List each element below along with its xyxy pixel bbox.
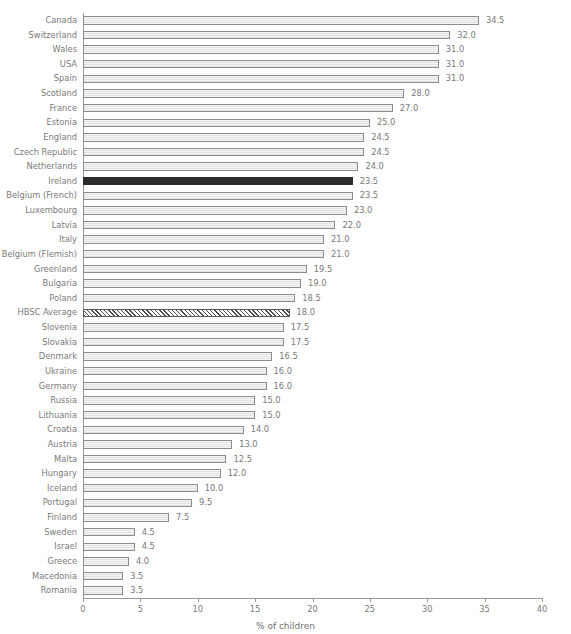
bar-row: Ukraine16.0 [83, 364, 542, 379]
x-tick [83, 598, 84, 602]
bar [83, 250, 324, 258]
bar [83, 367, 267, 375]
category-label: Canada [0, 13, 77, 28]
x-tick-label: 0 [68, 604, 98, 614]
bar-row: Belgium (Flemish)21.0 [83, 247, 542, 262]
bar [83, 586, 123, 594]
x-tick-label: 35 [470, 604, 500, 614]
category-label: Macedonia [0, 569, 77, 584]
bar-row: Sweden4.5 [83, 525, 542, 540]
bar-value-label: 3.5 [125, 569, 143, 584]
bar [83, 411, 255, 419]
bar-row: Russia15.0 [83, 393, 542, 408]
category-label: Slovakia [0, 335, 77, 350]
category-label: Lithuania [0, 408, 77, 423]
bar-value-label: 23.0 [349, 203, 372, 218]
x-tick [485, 598, 486, 602]
category-label: Belgium (French) [0, 188, 77, 203]
bar-row: Czech Republic24.5 [83, 145, 542, 160]
bar-row: Italy21.0 [83, 232, 542, 247]
bar-value-label: 21.0 [326, 247, 349, 262]
bar [83, 323, 284, 331]
bar-row: Hungary12.0 [83, 466, 542, 481]
category-label: Belgium (Flemish) [0, 247, 77, 262]
bar-value-label: 16.5 [274, 349, 297, 364]
category-label: Spain [0, 71, 77, 86]
bar-value-label: 31.0 [441, 42, 464, 57]
bar-row: Scotland28.0 [83, 86, 542, 101]
plot-area: Canada34.5Switzerland32.0Wales31.0USA31.… [83, 13, 542, 598]
bar-row: England24.5 [83, 130, 542, 145]
bar-row: Latvia22.0 [83, 218, 542, 233]
bar-row: Bulgaria19.0 [83, 276, 542, 291]
bar [83, 455, 226, 463]
bar-row: Poland18.5 [83, 291, 542, 306]
bar-value-label: 23.5 [355, 174, 378, 189]
bar-value-label: 19.0 [303, 276, 326, 291]
bar [83, 484, 198, 492]
bar-value-label: 12.0 [223, 466, 246, 481]
category-label: Romania [0, 583, 77, 598]
category-label: France [0, 101, 77, 116]
bar-value-label: 10.0 [200, 481, 223, 496]
category-label: Poland [0, 291, 77, 306]
category-label: Malta [0, 452, 77, 467]
category-label: Greece [0, 554, 77, 569]
x-tick-label: 40 [527, 604, 557, 614]
category-label: Estonia [0, 115, 77, 130]
bar [83, 440, 232, 448]
x-tick-label: 25 [355, 604, 385, 614]
bar-row: Macedonia3.5 [83, 569, 542, 584]
x-tick-label: 10 [183, 604, 213, 614]
bar-value-label: 13.0 [234, 437, 257, 452]
bar-row: Slovenia17.5 [83, 320, 542, 335]
bar-value-label: 4.5 [137, 525, 155, 540]
x-tick [427, 598, 428, 602]
bar-chart: Canada34.5Switzerland32.0Wales31.0USA31.… [0, 0, 571, 634]
bar-row: Austria13.0 [83, 437, 542, 452]
x-tick [198, 598, 199, 602]
bar [83, 469, 221, 477]
bar [83, 192, 353, 200]
bar-value-label: 27.0 [395, 101, 418, 116]
bar-value-label: 24.5 [366, 145, 389, 160]
bar-value-label: 16.0 [269, 364, 292, 379]
bar-row: Iceland10.0 [83, 481, 542, 496]
bar-row: France27.0 [83, 101, 542, 116]
category-label: Ukraine [0, 364, 77, 379]
bar-value-label: 9.5 [194, 495, 212, 510]
bar-value-label: 23.5 [355, 188, 378, 203]
bar-value-label: 28.0 [406, 86, 429, 101]
category-label: Greenland [0, 262, 77, 277]
category-label: Israel [0, 539, 77, 554]
category-label: Sweden [0, 525, 77, 540]
bar [83, 89, 404, 97]
bar-value-label: 24.0 [360, 159, 383, 174]
bar [83, 352, 272, 360]
bar-value-label: 18.0 [292, 305, 315, 320]
bar [83, 426, 244, 434]
x-tick-label: 15 [240, 604, 270, 614]
category-label: Iceland [0, 481, 77, 496]
bar [83, 382, 267, 390]
bar [83, 16, 479, 24]
category-label: Portugal [0, 495, 77, 510]
bar-value-label: 21.0 [326, 232, 349, 247]
bar-row: Portugal9.5 [83, 495, 542, 510]
bar [83, 309, 290, 317]
bar-row: Switzerland32.0 [83, 28, 542, 43]
bar [83, 206, 347, 214]
bar-value-label: 32.0 [452, 28, 475, 43]
bar [83, 75, 439, 83]
bar [83, 338, 284, 346]
bar-row: Spain31.0 [83, 71, 542, 86]
category-label: Denmark [0, 349, 77, 364]
bar-row: Netherlands24.0 [83, 159, 542, 174]
bar-value-label: 16.0 [269, 379, 292, 394]
category-label: Austria [0, 437, 77, 452]
bar [83, 279, 301, 287]
bar [83, 221, 335, 229]
bar-row: Canada34.5 [83, 13, 542, 28]
category-label: Scotland [0, 86, 77, 101]
category-label: Latvia [0, 218, 77, 233]
